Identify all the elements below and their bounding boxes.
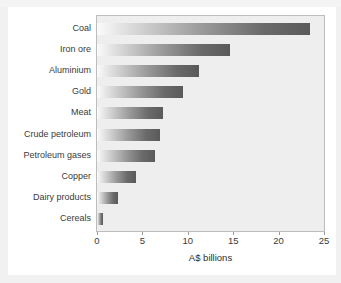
bar-row [97,107,163,119]
bar-coal [97,23,310,35]
plot-area [96,15,325,232]
y-axis-label-copper: Copper [0,170,91,182]
figure-caption-strip [0,0,341,7]
bar-row [97,213,103,225]
y-axis-label-aluminium: Aluminium [0,64,91,76]
y-axis-label-coal: Coal [0,22,91,34]
bar-petroleum-gases [97,150,155,162]
page-background: CoalIron oreAluminiumGoldMeatCrude petro… [0,0,341,283]
y-axis-label-cereals: Cereals [0,212,91,224]
bar-cereals [97,213,103,225]
y-axis-label-dairy-products: Dairy products [0,191,91,203]
figure-card: CoalIron oreAluminiumGoldMeatCrude petro… [8,7,336,275]
y-axis-label-meat: Meat [0,106,91,118]
bar-chart: CoalIron oreAluminiumGoldMeatCrude petro… [8,7,336,275]
bar-row [97,65,199,77]
x-tick-label-15: 15 [218,235,248,247]
y-axis-label-iron-ore: Iron ore [0,43,91,55]
x-tick-label-5: 5 [127,235,157,247]
bar-row [97,150,155,162]
bar-row [97,129,160,141]
bar-meat [97,107,163,119]
x-tick-label-10: 10 [173,235,203,247]
bar-copper [97,171,136,183]
bar-row [97,23,310,35]
bar-row [97,44,230,56]
x-axis-title: A$ billions [96,252,325,263]
bar-iron-ore [97,44,230,56]
x-tick-label-20: 20 [264,235,294,247]
y-axis-label-crude-petroleum: Crude petroleum [0,128,91,140]
bar-crude-petroleum [97,129,160,141]
bar-aluminium [97,65,199,77]
bar-gold [97,86,183,98]
x-tick-label-25: 25 [309,235,339,247]
y-axis-label-gold: Gold [0,85,91,97]
y-axis-label-petroleum-gases: Petroleum gases [0,149,91,161]
bar-dairy-products [97,192,118,204]
bar-row [97,192,118,204]
x-tick-label-0: 0 [82,235,112,247]
bar-row [97,171,136,183]
bar-row [97,86,183,98]
